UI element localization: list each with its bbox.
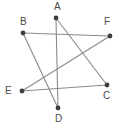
geometry-figure: ABCDEF bbox=[0, 0, 120, 129]
edge-segment-ac bbox=[56, 18, 107, 85]
vertex-label-c: C bbox=[103, 91, 110, 101]
edge-segment-ad bbox=[56, 18, 58, 108]
vertex-point-e bbox=[20, 89, 25, 94]
edge-segment-ec bbox=[22, 85, 107, 91]
edges-group bbox=[22, 18, 110, 108]
edge-segment-bf bbox=[23, 33, 110, 36]
vertex-point-d bbox=[56, 106, 61, 111]
vertex-label-a: A bbox=[54, 2, 61, 12]
edge-segment-bd bbox=[23, 33, 58, 108]
vertex-point-c bbox=[105, 83, 110, 88]
vertex-point-b bbox=[21, 31, 26, 36]
vertex-point-f bbox=[108, 34, 113, 39]
figure-canvas bbox=[0, 0, 120, 129]
vertex-label-d: D bbox=[55, 114, 62, 124]
vertex-label-b: B bbox=[20, 17, 27, 27]
edge-segment-ef bbox=[22, 36, 110, 91]
vertex-label-e: E bbox=[5, 86, 12, 96]
vertex-label-f: F bbox=[104, 17, 110, 27]
vertex-point-a bbox=[54, 16, 59, 21]
